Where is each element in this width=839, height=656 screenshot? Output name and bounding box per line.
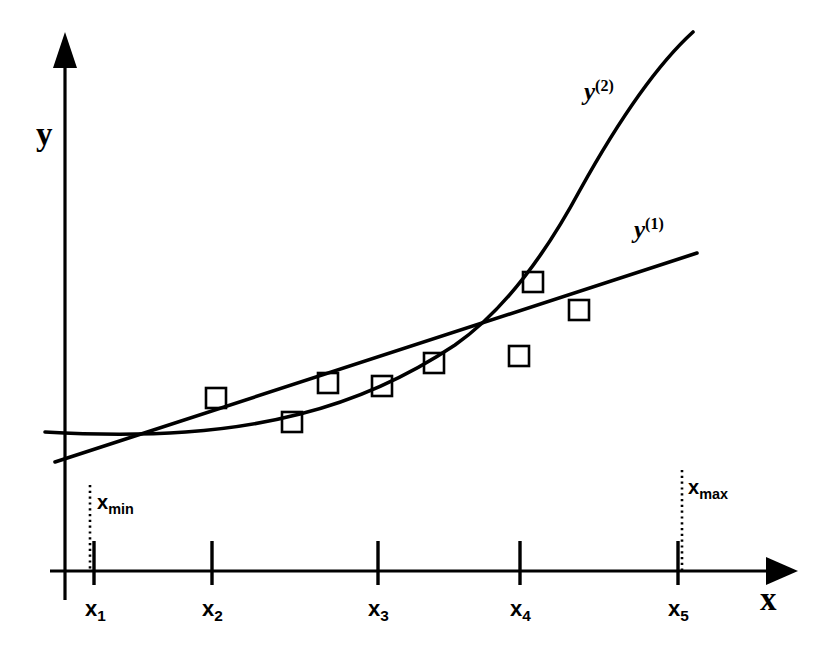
curve-label-y2: y(2) xyxy=(584,78,614,104)
x-axis-label: x xyxy=(760,583,777,616)
figure-canvas: y x y(2) y(1) xmin xmax x1 x2 x3 x4 x5 xyxy=(0,0,839,656)
data-point xyxy=(569,300,589,320)
xmax-label: xmax xyxy=(688,477,728,501)
curve-label-y2-base: y xyxy=(584,78,595,105)
x-tick-label-2-base: x xyxy=(202,596,214,621)
xmin-label-base: x xyxy=(97,491,108,513)
x-tick-label-1: x1 xyxy=(85,598,106,624)
data-point xyxy=(206,388,226,408)
y-axis-label: y xyxy=(36,118,53,151)
curve-label-y1-exponent: (1) xyxy=(645,215,664,232)
curve-label-y2-exponent: (2) xyxy=(595,77,614,94)
x-tick-label-3-sub: 3 xyxy=(380,607,389,624)
x-tick-label-2-sub: 2 xyxy=(214,607,223,624)
x-tick-label-4: x4 xyxy=(510,598,531,624)
curve-y1 xyxy=(55,253,697,462)
y-axis xyxy=(53,32,77,600)
x-axis-ticks xyxy=(94,541,678,585)
xmax-label-sub: max xyxy=(699,486,728,502)
curve-label-y1-base: y xyxy=(634,216,645,243)
x-tick-label-4-sub: 4 xyxy=(522,607,531,624)
xmax-label-base: x xyxy=(688,476,699,498)
xmin-label: xmin xyxy=(97,492,134,516)
x-tick-label-1-sub: 1 xyxy=(97,607,106,624)
x-tick-label-5: x5 xyxy=(668,598,689,624)
curve-label-y1: y(1) xyxy=(634,216,664,242)
x-tick-label-1-base: x xyxy=(85,596,97,621)
x-tick-label-2: x2 xyxy=(202,598,223,624)
xmin-label-sub: min xyxy=(108,501,134,517)
data-point xyxy=(509,346,529,366)
x-tick-label-3: x3 xyxy=(368,598,389,624)
x-tick-label-5-base: x xyxy=(668,596,680,621)
x-axis xyxy=(50,557,798,585)
x-tick-label-4-base: x xyxy=(510,596,522,621)
x-tick-label-3-base: x xyxy=(368,596,380,621)
bound-lines xyxy=(90,470,682,570)
figure-graphic xyxy=(0,0,839,656)
x-tick-label-5-sub: 5 xyxy=(680,607,689,624)
